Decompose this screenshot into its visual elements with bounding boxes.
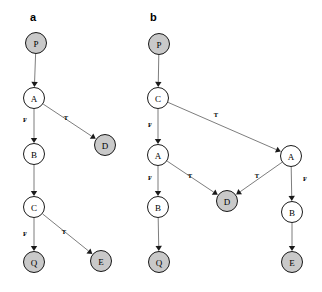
node-label: B <box>289 208 295 218</box>
edge <box>289 167 295 201</box>
arrowhead-icon <box>31 82 37 87</box>
node-label: Q <box>156 258 163 268</box>
tree-node[interactable]: C <box>24 197 45 218</box>
edge <box>167 161 218 195</box>
edge <box>155 109 161 144</box>
node-label: C <box>155 94 161 104</box>
node-label: B <box>155 203 161 213</box>
edge-label: T <box>62 228 67 235</box>
edge-label: T <box>255 172 260 179</box>
tree-node[interactable]: D <box>95 135 116 156</box>
tree-node[interactable]: Q <box>24 252 45 273</box>
edge-line <box>158 218 159 246</box>
edge <box>156 218 162 251</box>
edge <box>31 165 37 196</box>
edge <box>31 54 37 87</box>
edge-label: F <box>148 121 152 128</box>
node-label: A <box>155 151 162 161</box>
edge-label: F <box>23 116 27 123</box>
edge-line <box>168 102 276 149</box>
node-label: C <box>31 203 37 213</box>
tree-node[interactable]: E <box>282 252 303 273</box>
arrowhead-icon <box>86 248 92 254</box>
edge-line <box>35 54 36 82</box>
tree-node[interactable]: D <box>217 191 238 212</box>
edge-label: T <box>214 111 219 118</box>
tree-node[interactable]: A <box>148 145 169 166</box>
edge <box>31 218 37 251</box>
arrowhead-icon <box>155 139 161 144</box>
arrowhead-icon <box>236 189 242 194</box>
node-label: B <box>31 150 37 160</box>
edge-label: F <box>148 174 152 181</box>
panel-labels-layer: ab <box>30 11 157 23</box>
tree-node[interactable]: B <box>282 202 303 223</box>
edge <box>43 104 96 139</box>
arrowhead-icon <box>155 82 161 87</box>
edge <box>155 166 161 196</box>
panel-label: b <box>150 11 157 23</box>
node-label: D <box>102 141 109 151</box>
edge <box>168 102 281 152</box>
panel-label: a <box>30 11 37 23</box>
tree-node[interactable]: C <box>148 88 169 109</box>
edge <box>31 109 37 143</box>
tree-node[interactable]: B <box>24 144 45 165</box>
node-label: Q <box>31 258 38 268</box>
arrowhead-icon <box>212 189 218 194</box>
tree-node[interactable]: A <box>24 88 45 109</box>
arrowhead-icon <box>31 246 37 251</box>
arrowhead-icon <box>31 138 37 143</box>
tree-node[interactable]: Q <box>149 252 170 273</box>
arrowhead-icon <box>289 246 295 251</box>
edge <box>289 223 295 251</box>
tree-node[interactable]: A <box>281 146 302 167</box>
arrowhead-icon <box>156 246 162 251</box>
tree-node[interactable]: P <box>149 34 170 55</box>
tree-node[interactable]: B <box>148 197 169 218</box>
edge-line <box>240 162 282 191</box>
edge <box>155 55 161 87</box>
node-label: D <box>224 197 231 207</box>
node-label: A <box>31 94 38 104</box>
arrowhead-icon <box>155 191 161 196</box>
tree-node[interactable]: E <box>91 251 112 272</box>
edge-label: F <box>303 175 307 182</box>
nodes-layer: PADBCQEPCAABDBQE <box>24 33 303 273</box>
decision-tree-figure: FTFTFTFTTF PADBCQEPCAABDBQE ab <box>0 0 322 292</box>
edge-label: T <box>188 172 193 179</box>
tree-node[interactable]: P <box>26 33 47 54</box>
edge-label: F <box>23 230 27 237</box>
node-label: P <box>33 39 38 49</box>
node-label: P <box>156 40 161 50</box>
arrowhead-icon <box>90 133 96 138</box>
node-label: E <box>98 257 104 267</box>
node-label: A <box>288 152 295 162</box>
edge-label: T <box>64 114 69 121</box>
arrowhead-icon <box>289 196 295 201</box>
edge-line <box>291 167 292 196</box>
node-label: E <box>289 258 295 268</box>
edge <box>43 214 93 254</box>
arrowhead-icon <box>31 191 37 196</box>
